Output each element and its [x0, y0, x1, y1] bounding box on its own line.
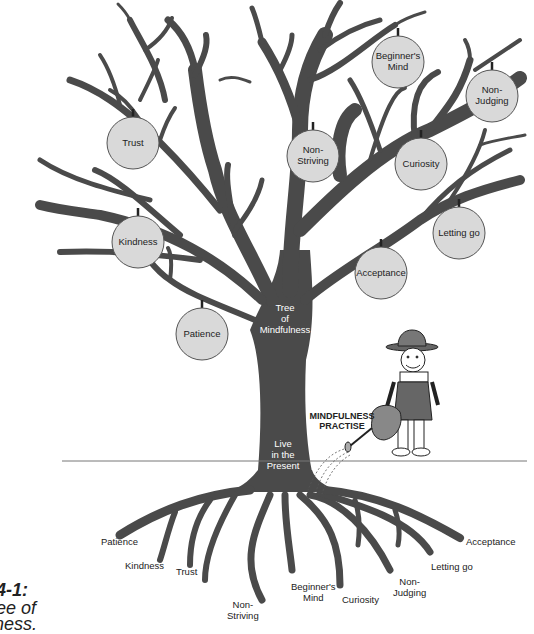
root-label: Curiosity	[342, 595, 379, 606]
ornament-label: Kindness	[111, 215, 165, 269]
ornament-label: Trust	[106, 116, 160, 170]
root-label: Letting go	[431, 562, 473, 573]
ornament-label: Non- Judging	[465, 69, 519, 123]
root-label: Acceptance	[466, 537, 516, 548]
ornament-label: Letting go	[432, 206, 486, 260]
root-label: Beginner's Mind	[291, 582, 336, 604]
ornament-label: Acceptance	[354, 246, 408, 300]
ornament-label: Beginner's Mind	[371, 35, 425, 89]
ornament-label: Curiosity	[394, 137, 448, 191]
mindfulness-practise-label: MINDFULNESS PRACTISE	[302, 411, 382, 432]
root-label: Kindness	[125, 561, 164, 572]
trunk-label-tree-of-mindfulness: Tree of Mindfulness	[245, 303, 325, 336]
root-label: Non- Striving	[227, 600, 259, 622]
gardener-illustration	[345, 330, 438, 456]
ornament-label: Non- Striving	[286, 129, 340, 183]
root-label: Non- Judging	[393, 577, 426, 599]
root-label: Patience	[101, 537, 138, 548]
root-label: Trust	[176, 567, 197, 578]
figure-caption-line3: ness.	[0, 614, 37, 634]
trunk-label-live-in-present: Live in the Present	[243, 439, 323, 472]
ornament-label: Patience	[175, 307, 229, 361]
